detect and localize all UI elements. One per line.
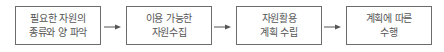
step-label-line2: 자원수집 xyxy=(152,26,187,40)
arrow-right-icon xyxy=(324,24,341,30)
step-label-line2: 종류와 양 파악 xyxy=(29,26,87,40)
step-label-line1: 필요한 자원의 xyxy=(30,12,85,26)
step-label-line2: 수행 xyxy=(380,26,397,40)
step-box-collect-resources: 이용 가능한 자원수집 xyxy=(126,6,212,45)
arrow-right-icon xyxy=(104,24,121,30)
step-box-identify-resources: 필요한 자원의 종류와 양 파악 xyxy=(15,6,101,45)
step-box-execute-plan: 계획에 따른 수행 xyxy=(346,6,432,45)
arrow-right-icon xyxy=(214,24,231,30)
step-label-line1: 이용 가능한 xyxy=(146,12,192,26)
step-label-line2: 계획 수립 xyxy=(260,26,298,40)
step-label-line1: 자원활용 xyxy=(262,12,297,26)
step-box-plan-resource-use: 자원활용 계획 수립 xyxy=(236,6,322,45)
step-label-line1: 계획에 따른 xyxy=(366,12,412,26)
